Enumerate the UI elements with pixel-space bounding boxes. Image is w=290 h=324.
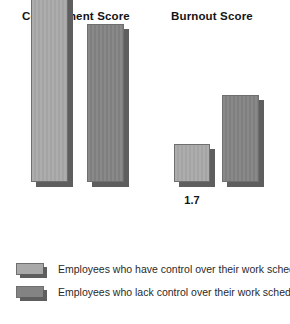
bar-face — [87, 24, 124, 182]
bar-side-shadow — [124, 29, 129, 187]
legend-label: Employees who have control over their wo… — [58, 261, 290, 277]
bar-burnout-lack-control[interactable] — [222, 95, 264, 182]
legend-item-lack-control[interactable]: Employees who lack control over their wo… — [16, 284, 282, 306]
bar-commitment-lack-control[interactable] — [87, 24, 129, 182]
bar-side-shadow — [259, 100, 264, 187]
bar-face — [174, 144, 210, 182]
legend-swatch-bottom-shadow — [20, 297, 47, 301]
legend-swatch-bottom-shadow — [20, 274, 47, 278]
bar-bottom-shadow — [36, 182, 73, 187]
bar-commitment-have-control[interactable] — [31, 0, 73, 182]
legend-swatch-icon — [16, 286, 44, 298]
bar-bottom-shadow — [92, 182, 129, 187]
bar-chart: Commitment Score Burnout Score 8.7 7.3 1… — [0, 0, 290, 324]
legend-item-have-control[interactable]: Employees who have control over their wo… — [16, 261, 282, 283]
bar-bottom-shadow — [179, 182, 215, 187]
bar-face — [31, 0, 68, 182]
chart-legend: Employees who have control over their wo… — [0, 261, 290, 317]
legend-label: Employees who lack control over their wo… — [58, 284, 290, 300]
legend-swatch-icon — [16, 263, 44, 275]
value-label-burnout-have-control: 1.7 — [174, 194, 210, 206]
bar-burnout-have-control[interactable] — [174, 144, 215, 182]
plot-area: 8.7 7.3 1.7 4.0 — [0, 0, 290, 255]
bar-face — [222, 95, 259, 182]
bar-bottom-shadow — [227, 182, 264, 187]
bar-side-shadow — [68, 0, 73, 187]
